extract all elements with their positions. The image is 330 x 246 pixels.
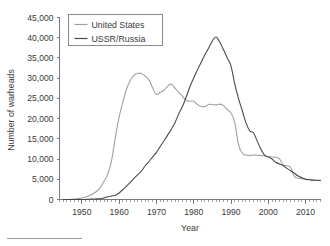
x-tick-label: 1960 xyxy=(110,207,129,217)
x-tick-label: 1950 xyxy=(72,207,91,217)
y-tick-label: 25,000 xyxy=(27,93,54,103)
chart-legend: United StatesUSSR/Russia xyxy=(69,15,163,46)
y-tick-label: 30,000 xyxy=(27,73,54,83)
x-axis-title: Year xyxy=(181,223,199,233)
y-tick-label: 45,000 xyxy=(27,13,54,23)
x-tick-label: 1990 xyxy=(221,207,240,217)
y-tick-label: 20,000 xyxy=(27,114,54,124)
y-tick-label: 40,000 xyxy=(27,33,54,43)
y-tick-label: 0 xyxy=(49,195,54,205)
x-tick-label: 2010 xyxy=(296,207,315,217)
x-tick-label: 1970 xyxy=(147,207,166,217)
y-tick-label: 10,000 xyxy=(27,154,54,164)
figure-container: 05,00010,00015,00020,00025,00030,00035,0… xyxy=(0,0,330,246)
x-tick-label: 1980 xyxy=(184,207,203,217)
legend-label-1: United States xyxy=(92,20,145,30)
y-tick-label: 15,000 xyxy=(27,134,54,144)
legend-label-2: USSR/Russia xyxy=(92,34,146,44)
y-tick-label: 35,000 xyxy=(27,53,54,63)
warheads-line-chart: 05,00010,00015,00020,00025,00030,00035,0… xyxy=(0,0,330,246)
y-axis-title: Number of warheads xyxy=(6,69,16,151)
y-tick-label: 5,000 xyxy=(32,174,54,184)
x-tick-label: 2000 xyxy=(259,207,278,217)
